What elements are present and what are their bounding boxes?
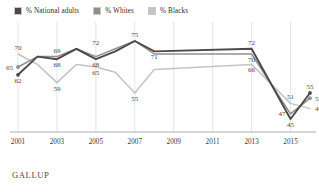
x-axis-tick-label: 2011 <box>206 138 221 146</box>
data-value-label: 51 <box>287 93 295 101</box>
legend-label: % Whites <box>105 7 134 15</box>
legend-item-national[interactable]: % National adults <box>14 7 79 15</box>
legend-item-blacks[interactable]: % Blacks <box>148 7 188 15</box>
data-value-label: 72 <box>248 39 256 47</box>
x-axis-tick-label: 2007 <box>128 138 143 146</box>
data-value-label: 70 <box>15 44 23 52</box>
data-value-label: 55 <box>131 95 139 103</box>
legend-item-whites[interactable]: % Whites <box>93 7 134 15</box>
data-value-label: 62 <box>15 77 23 85</box>
legend-swatch-whites-icon <box>93 7 101 15</box>
series-line-blacks <box>18 54 310 109</box>
chart-legend: % National adults% Whites% Blacks <box>0 0 319 22</box>
data-value-label: 53 <box>315 95 319 103</box>
x-axis-tick-label: 2001 <box>11 138 26 146</box>
data-value-label: 68 <box>92 61 100 69</box>
chart-plot-area: 2001200320052007200920112013201570596555… <box>0 20 319 163</box>
x-axis-tick-label: 2005 <box>89 138 104 146</box>
legend-swatch-national-icon <box>14 7 22 15</box>
chart-svg: 2001200320052007200920112013201570596555… <box>0 20 319 163</box>
legend-label: % National adults <box>26 7 79 15</box>
data-value-label: 65 <box>92 69 100 77</box>
data-value-label: 75 <box>131 31 139 39</box>
gallup-line-chart: % National adults% Whites% Blacks 200120… <box>0 0 319 193</box>
x-axis-tick-label: 2015 <box>283 138 298 146</box>
series-point <box>308 96 312 100</box>
series-point <box>16 65 20 69</box>
data-value-label: 55 <box>307 83 315 91</box>
series-point <box>308 91 312 95</box>
data-value-label: 45 <box>287 121 295 129</box>
data-value-label: 71 <box>151 53 159 61</box>
data-value-label: 47 <box>279 110 287 118</box>
data-value-label: 70 <box>248 56 256 64</box>
legend-swatch-blacks-icon <box>148 7 156 15</box>
data-value-label: 66 <box>248 66 256 74</box>
data-value-label: 69 <box>53 47 61 55</box>
data-value-label: 72 <box>92 39 100 47</box>
x-axis-tick-label: 2003 <box>50 138 65 146</box>
data-value-label: 68 <box>53 61 61 69</box>
gallup-brand-footer: GALLUP <box>12 170 50 180</box>
data-value-label: 65 <box>6 64 14 72</box>
data-value-label: 59 <box>53 85 61 93</box>
x-axis-tick-label: 2013 <box>244 138 259 146</box>
x-axis-tick-label: 2009 <box>167 138 182 146</box>
data-value-label: 49 <box>315 105 319 113</box>
legend-label: % Blacks <box>160 7 188 15</box>
